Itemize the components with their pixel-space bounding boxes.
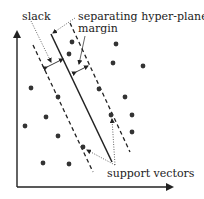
data-point: [109, 113, 114, 118]
support-vector-leader-1: [87, 150, 115, 165]
margin-line-left: [33, 45, 93, 172]
data-point: [41, 161, 46, 166]
data-point: [56, 134, 61, 139]
data-point: [130, 130, 135, 135]
data-point: [130, 113, 135, 118]
data-point: [141, 64, 146, 69]
margin-arrow: [76, 66, 88, 72]
data-point: [23, 124, 28, 129]
data-point: [111, 61, 116, 66]
data-point: [123, 95, 128, 100]
margin-leader: [79, 36, 85, 64]
data-point: [67, 52, 72, 57]
data-point: [97, 87, 102, 92]
support-vector-leader-2: [112, 119, 115, 165]
data-point: [56, 95, 61, 100]
data-point: [44, 115, 49, 120]
margin-label: margin: [78, 22, 118, 35]
data-point: [67, 162, 72, 167]
data-point: [114, 42, 119, 47]
data-point: [29, 86, 34, 91]
slack-label: slack: [22, 10, 51, 23]
slack-arrow: [47, 59, 63, 67]
data-point: [70, 40, 75, 45]
slack-leader: [31, 21, 51, 62]
svm-diagram: slack separating hyper-plane margin supp…: [0, 0, 204, 199]
data-point: [81, 145, 86, 150]
support-vectors-label: support vectors: [107, 167, 195, 180]
